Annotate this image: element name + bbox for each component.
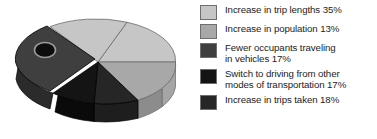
legend-swatch-icon bbox=[200, 69, 217, 84]
pie-chart-figure: Increase in trip lengths 35% Increase in… bbox=[0, 0, 377, 139]
legend-item-population: Increase in population 13% bbox=[200, 23, 377, 39]
legend-item-trip-lengths: Increase in trip lengths 35% bbox=[200, 4, 377, 20]
slice-hole-marker bbox=[35, 43, 56, 58]
legend-swatch-icon bbox=[200, 24, 217, 39]
pie-svg bbox=[0, 0, 192, 139]
legend-label: Fewer occupants traveling in vehicles 17… bbox=[225, 42, 336, 65]
legend-item-fewer-occupants: Fewer occupants traveling in vehicles 17… bbox=[200, 42, 377, 65]
legend-item-trips-taken: Increase in trips taken 18% bbox=[200, 94, 377, 110]
legend-item-switch-driving: Switch to driving from other modes of tr… bbox=[200, 68, 377, 91]
legend-swatch-icon bbox=[200, 95, 217, 110]
legend-label: Switch to driving from other modes of tr… bbox=[225, 68, 346, 91]
pie-chart-graphic bbox=[0, 0, 192, 139]
legend-label: Increase in trips taken 18% bbox=[225, 94, 339, 105]
legend-label: Increase in trip lengths 35% bbox=[225, 4, 342, 15]
legend-swatch-icon bbox=[200, 5, 217, 20]
chart-legend: Increase in trip lengths 35% Increase in… bbox=[200, 4, 377, 139]
legend-swatch-icon bbox=[200, 43, 217, 58]
legend-label: Increase in population 13% bbox=[225, 23, 339, 34]
